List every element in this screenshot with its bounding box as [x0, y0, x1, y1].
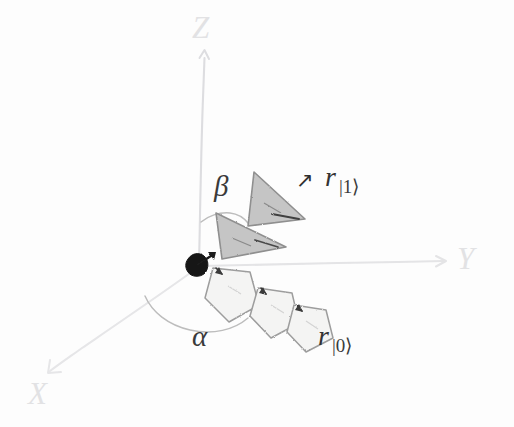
sketch-drawing: [0, 0, 514, 427]
r-ket-0-label: r|0⟩: [318, 322, 352, 355]
triangle-sequence: [216, 172, 305, 259]
r-ket-1-label: r|1⟩: [325, 163, 359, 196]
r-ket-1-symbol: r: [325, 161, 336, 192]
x-axis-line: [48, 268, 197, 373]
pentagon-sequence: [205, 267, 333, 352]
alpha-angle-label: α: [192, 322, 207, 351]
y-axis-line: [200, 256, 446, 267]
x-axis-label: X: [28, 378, 47, 409]
diagram-canvas: Z Y X β α ↗ r|1⟩ r|0⟩: [0, 0, 514, 427]
z-axis-label: Z: [192, 12, 210, 43]
r-ket-1-arrow-icon: ↗: [296, 168, 314, 192]
beta-angle-label: β: [214, 172, 228, 201]
r-ket-1-subscript: |1⟩: [339, 176, 359, 197]
r-ket-0-symbol: r: [318, 320, 329, 351]
r-ket-0-subscript: |0⟩: [332, 335, 352, 356]
axis-lines: [48, 50, 446, 373]
y-axis-label: Y: [457, 243, 475, 274]
z-axis-line: [199, 50, 209, 266]
